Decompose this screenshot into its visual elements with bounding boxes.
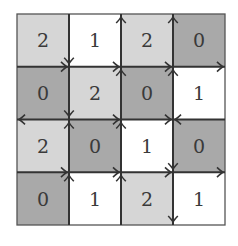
arrow-lines	[0, 0, 238, 246]
